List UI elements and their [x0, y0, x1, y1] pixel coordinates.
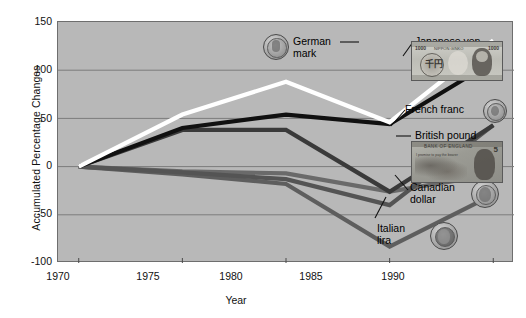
annotation-canadian-dollar-line1: Canadian [410, 182, 455, 194]
annotation-canadian-dollar: Canadian dollar [410, 182, 455, 205]
annotation-german-mark-line2: mark [293, 48, 331, 60]
x-tick-1990: 1990 [370, 270, 416, 282]
yen-kanji: 千円 [425, 57, 443, 70]
x-tick-1980: 1980 [208, 270, 254, 282]
plot-area: German mark Japanese yen French franc Br… [57, 21, 513, 262]
y-tick-50: 50 [18, 112, 52, 124]
annotation-canadian-dollar-line2: dollar [410, 194, 455, 206]
annotation-german-mark: German mark [293, 36, 331, 59]
annotation-german-mark-line1: German [293, 36, 331, 48]
annotation-french-franc: French franc [405, 104, 464, 116]
italian-lira-coin-icon [430, 222, 458, 250]
x-axis-title: Year [176, 294, 296, 306]
yen-denom-left: 1000 [415, 45, 426, 51]
annotation-british-pound-line1: British pound [415, 130, 476, 142]
german-mark-coin-icon [263, 34, 289, 60]
yen-denom-right: 1000 [488, 45, 499, 51]
canadian-dollar-coin-icon [471, 180, 499, 208]
x-tick-1975: 1975 [125, 270, 171, 282]
gbp-denom: 5 [494, 145, 498, 154]
british-pound-banknote-icon: BANK OF ENGLAND I promise to pay the bea… [411, 141, 503, 183]
annotation-italian-lira-line1: Italian [377, 223, 405, 235]
x-tick-1970: 1970 [35, 270, 81, 282]
annotation-french-franc-line1: French franc [405, 104, 464, 116]
annotation-italian-lira: Italian lira [377, 223, 405, 246]
y-tick-150: 150 [18, 15, 52, 27]
chart-figure: Accumulated Percentage Changes 150 100 5… [0, 0, 526, 318]
gbp-bank-text: BANK OF ENGLAND [424, 144, 473, 149]
french-franc-coin-icon [483, 99, 507, 123]
japanese-yen-banknote-icon: 1000 1000 NIPPON GINKO 千円 [411, 41, 503, 81]
x-tick-1985: 1985 [288, 270, 334, 282]
y-tick-neg50: -50 [18, 207, 52, 219]
annotation-italian-lira-line2: lira [377, 235, 405, 247]
y-tick-100: 100 [18, 63, 52, 75]
annotation-british-pound: British pound [415, 130, 476, 142]
y-tick-0: 0 [18, 159, 52, 171]
y-tick-neg100: -100 [18, 255, 52, 267]
